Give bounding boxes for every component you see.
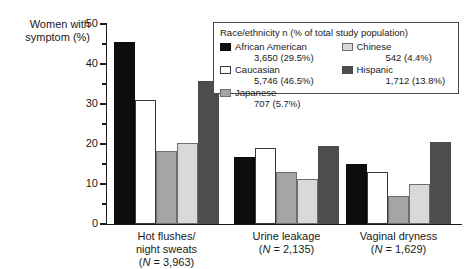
bar bbox=[346, 164, 367, 224]
bar bbox=[135, 100, 156, 224]
legend-series-label: Hispanic bbox=[357, 65, 393, 75]
bar bbox=[198, 81, 219, 224]
legend-series-label: Japanese bbox=[235, 88, 276, 98]
legend-series-label: Chinese bbox=[357, 42, 392, 52]
bar bbox=[388, 196, 409, 224]
y-tick-label: 20 bbox=[76, 138, 98, 149]
bar-group bbox=[114, 24, 219, 224]
bar bbox=[430, 142, 451, 224]
legend-entry: Caucasian5,746 (46.5%) bbox=[220, 64, 332, 86]
x-group-label: Hot flushes/night sweats(N = 3,963) bbox=[102, 230, 232, 269]
legend-series-count: 707 (5.7%) bbox=[220, 98, 332, 109]
legend-column-left: African American3,650 (29.5%)Caucasian5,… bbox=[220, 41, 332, 110]
legend-series-count: 542 (4.4%) bbox=[342, 52, 454, 63]
y-tick-label: 0 bbox=[76, 218, 98, 229]
bar bbox=[297, 179, 318, 224]
legend-entry: Japanese707 (5.7%) bbox=[220, 87, 332, 109]
legend-entry: African American3,650 (29.5%) bbox=[220, 41, 332, 63]
bar bbox=[114, 42, 135, 224]
legend-swatch-icon bbox=[220, 43, 231, 51]
y-axis-label-line2: symptom (%) bbox=[25, 31, 90, 43]
x-group-label: Urine leakage(N = 2,135) bbox=[222, 230, 352, 256]
legend-entry-row: Chinese bbox=[342, 41, 454, 52]
y-tick-label: 50 bbox=[76, 18, 98, 29]
legend-swatch-icon bbox=[342, 43, 353, 51]
bar bbox=[276, 172, 297, 224]
bar bbox=[409, 184, 430, 224]
y-tick-label: 30 bbox=[76, 98, 98, 109]
legend-entry: Hispanic1,712 (13.8%) bbox=[342, 64, 454, 86]
x-group-label-n-symbol: N bbox=[374, 243, 382, 255]
legend-swatch-icon bbox=[342, 66, 353, 74]
legend-entry: Chinese542 (4.4%) bbox=[342, 41, 454, 63]
x-group-label: Vaginal dryness(N = 1,629) bbox=[334, 230, 464, 256]
bar bbox=[318, 146, 339, 224]
legend: Race/ethnicity n (% of total study popul… bbox=[213, 22, 459, 94]
x-group-label-line1: Urine leakage bbox=[222, 230, 352, 243]
legend-series-count: 5,746 (46.5%) bbox=[220, 75, 332, 86]
legend-series-label: Caucasian bbox=[235, 65, 280, 75]
bar bbox=[177, 143, 198, 224]
legend-swatch-icon bbox=[220, 89, 231, 97]
bar bbox=[234, 157, 255, 224]
y-tick-label: 10 bbox=[76, 178, 98, 189]
bar bbox=[156, 151, 177, 224]
x-group-label-line1: Vaginal dryness bbox=[334, 230, 464, 243]
x-group-label-n-symbol: N bbox=[262, 243, 270, 255]
bar bbox=[367, 172, 388, 224]
bar bbox=[255, 148, 276, 224]
legend-swatch-icon bbox=[220, 66, 231, 74]
x-group-label-line2: night sweats bbox=[102, 243, 232, 256]
x-group-label-n: (N = 1,629) bbox=[334, 243, 464, 256]
legend-series-count: 1,712 (13.8%) bbox=[342, 75, 454, 86]
legend-entry-row: Japanese bbox=[220, 87, 332, 98]
y-tick-label: 40 bbox=[76, 58, 98, 69]
legend-title: Race/ethnicity n (% of total study popul… bbox=[220, 27, 453, 38]
x-group-label-line1: Hot flushes/ bbox=[102, 230, 232, 243]
legend-column-right: Chinese542 (4.4%)Hispanic1,712 (13.8%) bbox=[342, 41, 454, 110]
x-group-label-n-symbol: N bbox=[142, 256, 150, 268]
legend-series-label: African American bbox=[235, 42, 307, 52]
x-group-label-n: (N = 3,963) bbox=[102, 256, 232, 269]
x-axis-line bbox=[106, 224, 462, 225]
x-group-label-n: (N = 2,135) bbox=[222, 243, 352, 256]
legend-entry-row: Hispanic bbox=[342, 64, 454, 75]
legend-entry-row: African American bbox=[220, 41, 332, 52]
legend-series-count: 3,650 (29.5%) bbox=[220, 52, 332, 63]
legend-entry-row: Caucasian bbox=[220, 64, 332, 75]
